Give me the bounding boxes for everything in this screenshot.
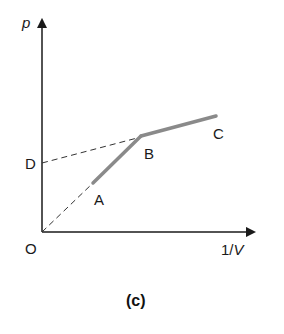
segment-BC <box>141 116 216 136</box>
caption: (c) <box>126 292 146 309</box>
point-label-A: A <box>94 191 104 208</box>
point-label-O: O <box>25 240 37 257</box>
point-label-D: D <box>25 155 36 172</box>
point-label-B: B <box>144 145 154 162</box>
y-axis-label: p <box>21 14 30 31</box>
pv-diagram: p D O A B C 1/V (c) <box>0 0 284 334</box>
segment-AB <box>93 136 141 183</box>
x-axis-label-num: 1/ <box>221 241 234 258</box>
x-axis-label: 1/V <box>221 241 246 258</box>
x-axis-label-var: V <box>234 241 246 258</box>
dashed-line-OA <box>42 183 93 232</box>
point-label-C: C <box>213 125 224 142</box>
